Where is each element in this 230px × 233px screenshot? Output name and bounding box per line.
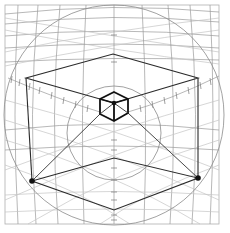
large-cube-left-edge <box>26 78 32 181</box>
right-vanishing-point <box>195 175 201 181</box>
perspective-grid-svg <box>0 0 230 233</box>
perspective-grid <box>5 5 219 224</box>
horizon-tick-lines <box>8 35 219 220</box>
diagram-frame <box>5 5 219 224</box>
center-vanishing-dot <box>112 101 117 106</box>
perspective-diagram <box>0 0 230 233</box>
left-vanishing-point <box>29 178 35 184</box>
